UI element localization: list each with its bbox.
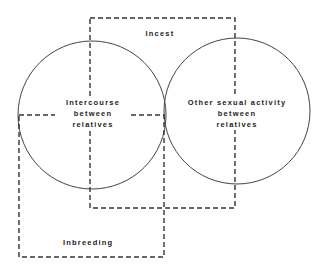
diagram-shapes bbox=[0, 0, 320, 273]
incest-label: Incest bbox=[140, 28, 180, 39]
other-activity-line-3: relatives bbox=[182, 119, 292, 130]
inbreeding-region bbox=[19, 115, 164, 257]
intercourse-line-1: Intercourse bbox=[55, 97, 131, 108]
intercourse-line-2: between bbox=[55, 108, 131, 119]
other-activity-line-2: between bbox=[182, 108, 292, 119]
inbreeding-label: Inbreeding bbox=[63, 237, 123, 248]
intercourse-line-3: relatives bbox=[55, 119, 131, 130]
other-activity-line-1: Other sexual activity bbox=[182, 97, 292, 108]
intercourse-label: Intercourse between relatives bbox=[55, 97, 131, 130]
diagram-canvas: Incest Intercourse between relatives Oth… bbox=[0, 0, 320, 273]
other-activity-label: Other sexual activity between relatives bbox=[182, 97, 292, 130]
